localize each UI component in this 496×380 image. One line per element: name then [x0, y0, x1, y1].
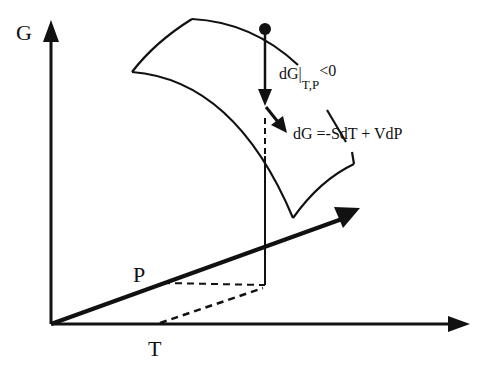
surface-equation-label: dG =-SdT + VdP [293, 126, 402, 142]
g-axis-arrowhead-icon [43, 20, 59, 42]
gibbs-energy-diagram: G P T dG|T,P<0 dG =-SdT + VdP [0, 0, 496, 380]
diagram-canvas [0, 0, 496, 380]
g-surface [132, 19, 354, 218]
spontaneous-main: dG| [279, 65, 302, 82]
spontaneous-superscript: <0 [319, 62, 336, 79]
projection-lines [160, 283, 265, 323]
t-axis-arrowhead-icon [448, 316, 470, 332]
g-axis-label: G [16, 22, 32, 44]
spontaneous-condition-label: dG|T,P<0 [279, 66, 336, 82]
p-axis-label: P [133, 264, 145, 286]
spontaneous-subscript: T,P [302, 77, 319, 92]
g-axis [43, 20, 59, 324]
t-axis [51, 316, 470, 332]
down-arrowhead-icon [258, 89, 272, 106]
p-axis-arrowhead-icon [334, 207, 360, 228]
t-axis-label: T [148, 338, 161, 360]
